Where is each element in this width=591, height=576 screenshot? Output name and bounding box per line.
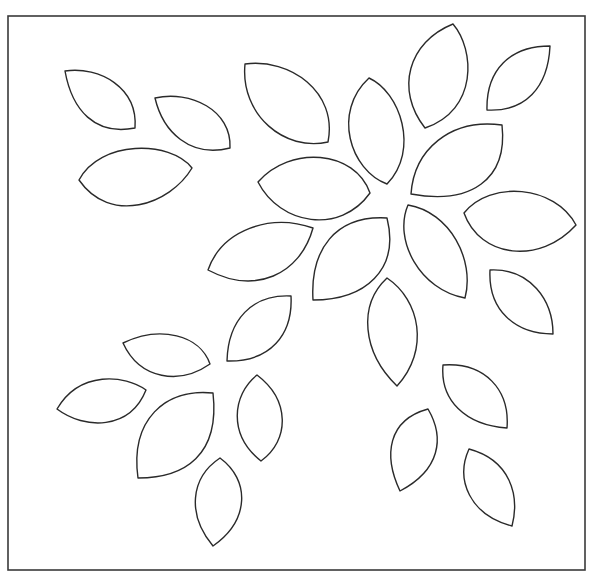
leaf-01-shape xyxy=(65,70,135,129)
leaf-stencil-canvas xyxy=(0,0,591,576)
leaf-16-shape xyxy=(227,296,291,361)
leaf-22-shape xyxy=(443,365,507,428)
leaf-10-shape xyxy=(464,191,576,251)
leaf-24-shape xyxy=(464,449,515,526)
leaf-19-shape xyxy=(137,392,214,478)
leaf-08-shape xyxy=(411,124,503,197)
leaf-15-shape xyxy=(368,278,418,386)
leaf-17-shape xyxy=(123,334,210,376)
leaf-06-shape xyxy=(409,24,468,128)
leaf-05-shape xyxy=(349,78,404,184)
leaf-09-shape xyxy=(258,157,370,220)
leaf-11-shape xyxy=(208,223,313,281)
leaf-07-shape xyxy=(487,46,550,110)
leaf-20-shape xyxy=(237,375,282,461)
leaf-18-shape xyxy=(57,379,146,423)
leaf-21-shape xyxy=(195,458,241,546)
leaf-03-shape xyxy=(79,148,192,206)
leaf-23-shape xyxy=(391,409,437,491)
leaf-14-shape xyxy=(490,270,553,334)
leaf-13-shape xyxy=(404,205,467,298)
leaf-02-shape xyxy=(155,96,230,150)
leaf-04-shape xyxy=(245,63,330,143)
leaf-shapes-group xyxy=(57,24,576,546)
